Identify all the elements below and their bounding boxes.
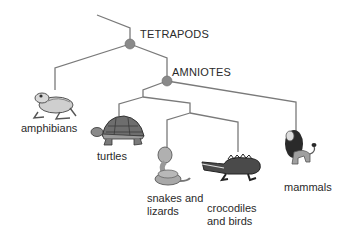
taxon-label-turtles: turtles (97, 150, 127, 163)
turtle-icon (90, 112, 148, 148)
frog-icon (30, 88, 78, 122)
taxon-label-crocodiles-line1: crocodiles (207, 202, 257, 215)
taxon-label-snakes-line2: lizards (147, 205, 179, 218)
snake-icon (150, 145, 194, 191)
tetrapods-label: TETRAPODS (140, 28, 209, 41)
lion-icon (280, 126, 322, 172)
tetrapods-node (125, 39, 135, 49)
taxon-label-crocodiles-line2: and birds (207, 215, 252, 228)
amniotes-node (162, 76, 172, 86)
taxon-label-snakes-line1: snakes and (147, 192, 203, 205)
crocodile-icon (198, 150, 266, 184)
cladogram-diagram: TETRAPODS AMNIOTES amphibians turtles sn… (0, 0, 356, 244)
amniotes-label: AMNIOTES (172, 66, 231, 79)
taxon-label-amphibians: amphibians (21, 122, 77, 135)
taxon-label-mammals: mammals (284, 181, 332, 194)
